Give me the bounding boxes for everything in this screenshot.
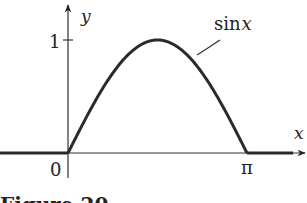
figure-caption: Figure 20 bbox=[0, 193, 108, 203]
function-label-fn: sin bbox=[214, 13, 241, 34]
x-tick-label-pi: π bbox=[241, 157, 253, 178]
x-axis-label: x bbox=[294, 123, 304, 143]
function-label-var: x bbox=[242, 13, 252, 34]
function-label: sinx bbox=[214, 13, 252, 34]
sine-pulse-figure: y x 1 0 π sinx Figure 20 bbox=[0, 0, 307, 203]
function-label-leader bbox=[197, 40, 220, 55]
sine-curve bbox=[68, 40, 247, 153]
y-tick-label-1: 1 bbox=[49, 31, 60, 52]
y-axis-label: y bbox=[80, 6, 91, 26]
x-tick-label-0: 0 bbox=[50, 159, 61, 180]
